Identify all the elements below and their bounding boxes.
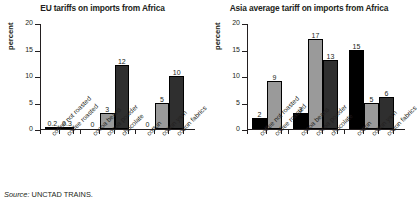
bar-value-label: 6 (385, 90, 389, 97)
chart-panels: EU tariffs on imports from Africa percen… (0, 0, 413, 185)
chart-panel-eu: EU tariffs on imports from Africa percen… (0, 0, 205, 185)
bar-slot: 2 (252, 23, 267, 129)
chart-title-asia: Asia average tariff on imports from Afri… (205, 3, 413, 13)
y-tick: 10 (35, 77, 40, 78)
bar-slot: 5 (155, 23, 170, 129)
bar-value-label: 17 (312, 32, 320, 39)
y-tick: 15 (35, 51, 40, 52)
y-tick: 5 (35, 104, 40, 105)
y-tick-label: 20 (25, 19, 33, 26)
bar-slot: 15 (349, 23, 364, 129)
chart-panel-asia: Asia average tariff on imports from Afri… (205, 0, 413, 185)
bar-slot: 0.2 (45, 23, 60, 129)
bar-value-label: 13 (327, 53, 335, 60)
bar-value-label: 0 (91, 121, 95, 128)
bar-value-label: 3 (105, 106, 109, 113)
bar-value-label: 2 (258, 111, 262, 118)
bar-value-label: 12 (118, 58, 126, 65)
y-tick: 20 (35, 24, 40, 25)
y-tick-label: 5 (29, 99, 33, 106)
y-axis-label-asia: percent (213, 23, 222, 50)
bar-slot: 5 (364, 23, 379, 129)
y-tick-label: 0 (236, 125, 240, 132)
y-tick-label: 5 (236, 99, 240, 106)
bar-value-label: 9 (273, 74, 277, 81)
y-tick: 10 (242, 77, 247, 78)
y-tick-label: 15 (25, 46, 33, 53)
bar-value-label: 15 (353, 43, 361, 50)
y-tick-label: 10 (25, 72, 33, 79)
source-note: Source: UNCTAD TRAINS. (4, 190, 93, 199)
bar-slot: 0 (140, 23, 155, 129)
y-tick-label: 20 (232, 19, 240, 26)
y-tick-label: 15 (232, 46, 240, 53)
chart-title-eu: EU tariffs on imports from Africa (0, 3, 205, 13)
y-tick: 15 (242, 51, 247, 52)
bar-value-label: 5 (160, 96, 164, 103)
source-text: UNCTAD TRAINS. (32, 190, 93, 199)
source-prefix: Source: (4, 190, 29, 199)
y-tick-label: 10 (232, 72, 240, 79)
bar-value-label: 5 (370, 96, 374, 103)
bar-value-label: 10 (173, 69, 181, 76)
x-axis-labels-eu: coffee not roastedcoffee roastedcocoa be… (40, 132, 200, 184)
y-tick: 5 (242, 104, 247, 105)
y-tick-label: 0 (29, 125, 33, 132)
y-tick: 20 (242, 24, 247, 25)
x-axis-labels-asia: coffee not roastedcoffee roastedcocoa be… (247, 132, 407, 184)
y-axis-label-eu: percent (6, 23, 15, 50)
